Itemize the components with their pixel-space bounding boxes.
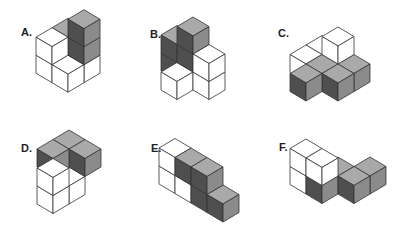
figure-label-d: D.: [21, 143, 32, 154]
figure-grid: A. B. C. D. E. F.: [0, 0, 397, 237]
figure-label-a: A.: [21, 27, 32, 38]
cube-figure-b: [161, 17, 225, 100]
figure-label-b: B.: [150, 29, 161, 40]
cube-figure-f: [290, 139, 386, 204]
figure-label-e: E.: [151, 143, 161, 154]
figure-label-c: C.: [278, 28, 289, 39]
cube-figure-e: [159, 139, 239, 223]
cube-figure-c: [290, 27, 370, 101]
cube-figure-d: [37, 130, 101, 214]
cube-figure-a: [36, 10, 100, 93]
cube-drawings: [0, 0, 397, 237]
figure-label-f: F.: [279, 142, 288, 153]
